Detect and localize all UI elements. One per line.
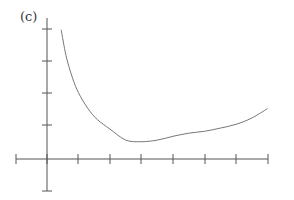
curve-line — [61, 30, 267, 142]
chart — [0, 0, 294, 200]
